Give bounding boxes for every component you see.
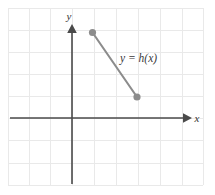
coordinate-plane-svg: y x y = h(x) — [0, 0, 215, 195]
function-label: y = h(x) — [119, 52, 157, 65]
segment-endpoint-upper — [89, 29, 96, 36]
graph-figure: y x y = h(x) — [0, 0, 215, 195]
x-axis-label: x — [194, 112, 200, 124]
segment-endpoint-lower — [133, 93, 140, 100]
y-axis-label: y — [66, 10, 72, 22]
figure-background — [0, 0, 215, 195]
